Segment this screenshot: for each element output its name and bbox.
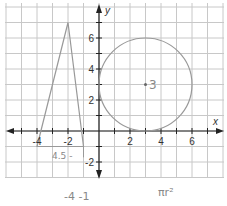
x-axis-left-arrow-icon bbox=[6, 128, 14, 134]
y-tick-label: 4 bbox=[88, 64, 94, 75]
y-tick-label: 2 bbox=[88, 95, 94, 106]
handwritten-note-right: πr² bbox=[158, 186, 174, 199]
y-axis-label: y bbox=[104, 5, 111, 16]
y-tick-label: 6 bbox=[88, 33, 94, 44]
x-tick-label: 6 bbox=[189, 136, 195, 147]
circle-center-point bbox=[144, 83, 147, 86]
coordinate-plane-figure: -4-2246642-2 x y 3 4.5 - -4 -1 πr² bbox=[0, 0, 227, 206]
y-axis-up-arrow-icon bbox=[96, 4, 102, 13]
x-tick-label: 4 bbox=[158, 136, 164, 147]
x-tick-label: -2 bbox=[64, 136, 73, 147]
x-axis-label: x bbox=[212, 116, 219, 127]
base-length-annotation: 4.5 - bbox=[52, 151, 72, 161]
handwritten-note-left: -4 -1 bbox=[64, 190, 89, 203]
x-tick-label: 2 bbox=[127, 136, 133, 147]
circle-center-annotation: 3 bbox=[149, 78, 157, 92]
y-tick-label: -2 bbox=[85, 157, 94, 168]
x-tick-label: -4 bbox=[33, 136, 42, 147]
